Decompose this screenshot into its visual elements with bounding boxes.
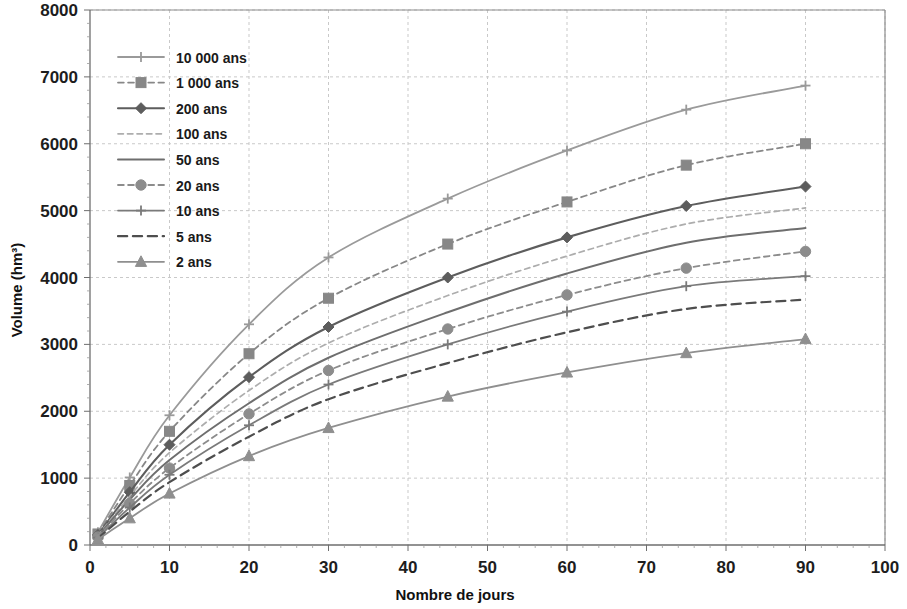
- legend-item-1-000-ans[interactable]: 1 000 ans: [118, 75, 239, 91]
- data-series-group: [92, 81, 811, 544]
- x-tick-label: 0: [85, 558, 94, 577]
- volume-duration-chart: 010002000300040005000600070008000 010203…: [0, 0, 907, 609]
- legend-label: 5 ans: [176, 229, 212, 245]
- series-marker-plus: [443, 194, 453, 204]
- series-marker-circle: [562, 290, 572, 300]
- y-tick-label: 1000: [40, 469, 78, 488]
- y-tick-label: 0: [69, 536, 78, 555]
- series-marker-circle: [323, 365, 333, 375]
- x-tick-label: 40: [399, 558, 418, 577]
- series-marker-circle: [244, 409, 254, 419]
- legend-item-100-ans[interactable]: 100 ans: [118, 126, 228, 142]
- y-tick-label: 2000: [40, 402, 78, 421]
- series-marker-square: [443, 239, 453, 249]
- series-marker-square: [801, 139, 811, 149]
- legend-label: 20 ans: [176, 178, 220, 194]
- legend-label: 200 ans: [176, 101, 228, 117]
- y-tick-label: 4000: [40, 269, 78, 288]
- series-marker-plus: [324, 252, 334, 262]
- x-axis-tick-labels: 0102030405060708090100: [85, 558, 899, 577]
- x-axis-title: Nombre de jours: [395, 586, 514, 603]
- series-line: [98, 276, 806, 537]
- series-marker-square: [562, 197, 572, 207]
- series-5-ans: [98, 300, 806, 539]
- x-tick-label: 70: [637, 558, 656, 577]
- x-tick-label: 10: [160, 558, 179, 577]
- legend-item-20-ans[interactable]: 20 ans: [118, 178, 220, 194]
- legend-label: 2 ans: [176, 254, 212, 270]
- chart-container: 010002000300040005000600070008000 010203…: [0, 0, 907, 609]
- series-line: [98, 339, 806, 539]
- series-2-ans: [92, 333, 811, 544]
- series-marker-triangle: [800, 333, 811, 344]
- legend-label: 10 ans: [176, 203, 220, 219]
- series-marker-square: [165, 426, 175, 436]
- series-marker-diamond: [323, 321, 334, 332]
- series-marker-square: [244, 349, 254, 359]
- legend-label: 10 000 ans: [176, 50, 247, 66]
- axis-ticks: [84, 10, 885, 551]
- series-line: [98, 300, 806, 539]
- x-tick-label: 30: [319, 558, 338, 577]
- legend-item-10-000-ans[interactable]: 10 000 ans: [118, 50, 247, 66]
- series-marker-plus: [443, 339, 453, 349]
- series-marker-diamond: [442, 272, 453, 283]
- chart-legend: 10 000 ans1 000 ans200 ans100 ans50 ans2…: [118, 50, 247, 271]
- legend-label: 100 ans: [176, 126, 228, 142]
- series-line: [98, 228, 806, 536]
- series-marker-plus: [562, 145, 572, 155]
- legend-item-2-ans[interactable]: 2 ans: [118, 254, 212, 270]
- series-marker-plus: [562, 307, 572, 317]
- series-marker-plus: [324, 380, 334, 390]
- y-tick-label: 7000: [40, 68, 78, 87]
- series-20-ans: [93, 246, 811, 542]
- series-marker-diamond: [562, 232, 573, 243]
- series-marker-plus: [244, 420, 254, 430]
- series-marker-plus: [801, 271, 811, 281]
- y-tick-label: 3000: [40, 335, 78, 354]
- y-tick-label: 5000: [40, 202, 78, 221]
- series-marker-circle: [800, 246, 810, 256]
- series-marker-circle: [443, 324, 453, 334]
- series-marker-triangle: [164, 488, 175, 499]
- series-marker-square: [681, 160, 691, 170]
- series-marker-circle: [681, 263, 691, 273]
- series-marker-square: [324, 293, 334, 303]
- series-marker-plus: [681, 105, 691, 115]
- series-marker-diamond: [681, 200, 692, 211]
- x-tick-label: 60: [558, 558, 577, 577]
- y-axis-tick-labels: 010002000300040005000600070008000: [40, 1, 78, 555]
- series-marker-plus: [136, 206, 146, 216]
- legend-label: 50 ans: [176, 152, 220, 168]
- series-10-000-ans: [93, 81, 811, 538]
- y-axis-title: Volume (hm³): [8, 243, 25, 338]
- legend-item-5-ans[interactable]: 5 ans: [118, 229, 212, 245]
- y-tick-label: 8000: [40, 1, 78, 20]
- x-tick-label: 90: [796, 558, 815, 577]
- series-marker-plus: [681, 281, 691, 291]
- x-tick-label: 20: [240, 558, 259, 577]
- series-50-ans: [98, 228, 806, 536]
- y-tick-label: 6000: [40, 135, 78, 154]
- legend-item-50-ans[interactable]: 50 ans: [118, 152, 220, 168]
- legend-label: 1 000 ans: [176, 75, 239, 91]
- series-marker-diamond: [800, 181, 811, 192]
- series-marker-plus: [801, 81, 811, 91]
- series-marker-diamond: [136, 103, 147, 114]
- x-tick-label: 50: [478, 558, 497, 577]
- series-marker-square: [136, 78, 146, 88]
- x-tick-label: 100: [871, 558, 899, 577]
- series-marker-circle: [136, 180, 146, 190]
- x-tick-label: 80: [717, 558, 736, 577]
- series-marker-plus: [136, 52, 146, 62]
- legend-item-200-ans[interactable]: 200 ans: [118, 101, 228, 117]
